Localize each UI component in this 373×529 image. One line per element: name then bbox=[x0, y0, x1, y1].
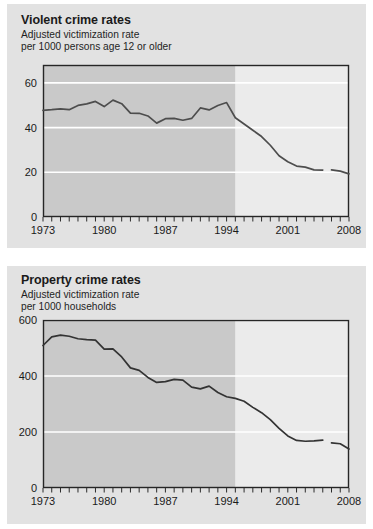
violent-crime-plot-svg: 1973198019871994200120080204060 bbox=[7, 56, 366, 246]
xtick-label-1994: 1994 bbox=[214, 495, 238, 507]
property-chart-title: Property crime rates bbox=[21, 273, 141, 287]
ytick-label-20: 20 bbox=[25, 166, 37, 178]
property-crime-panel: Property crime rates Adjusted victimizat… bbox=[7, 266, 366, 524]
property-crime-plot: 1973198019871994200120080200400600 bbox=[7, 312, 366, 517]
xtick-label-1987: 1987 bbox=[153, 495, 177, 507]
violent-chart-subtitle-line1: Adjusted victimization rate bbox=[21, 29, 139, 41]
property-chart-subtitle-line1: Adjusted victimization rate bbox=[21, 289, 139, 301]
violent-crime-plot: 1973198019871994200120080204060 bbox=[7, 56, 366, 246]
property-crime-plot-svg: 1973198019871994200120080200400600 bbox=[7, 312, 366, 517]
unshaded-region-post-redesign bbox=[235, 65, 349, 217]
xtick-label-1973: 1973 bbox=[31, 495, 55, 507]
ytick-label-600: 600 bbox=[19, 314, 37, 326]
shaded-region-pre-redesign bbox=[43, 320, 235, 488]
ytick-label-400: 400 bbox=[19, 370, 37, 382]
xtick-label-2001: 2001 bbox=[276, 224, 300, 236]
xtick-label-1980: 1980 bbox=[92, 224, 116, 236]
ytick-label-60: 60 bbox=[25, 77, 37, 89]
xtick-label-1973: 1973 bbox=[31, 224, 55, 236]
ytick-label-200: 200 bbox=[19, 426, 37, 438]
shaded-region-pre-redesign bbox=[43, 65, 235, 217]
xtick-label-1980: 1980 bbox=[92, 495, 116, 507]
ytick-label-40: 40 bbox=[25, 122, 37, 134]
xtick-label-1987: 1987 bbox=[153, 224, 177, 236]
ytick-label-0: 0 bbox=[31, 211, 37, 223]
xtick-label-1994: 1994 bbox=[214, 224, 238, 236]
crime-rate-charts-page: Violent crime rates Adjusted victimizati… bbox=[0, 0, 373, 529]
xtick-label-2008: 2008 bbox=[337, 224, 361, 236]
xtick-label-2008: 2008 bbox=[337, 495, 361, 507]
ytick-label-0: 0 bbox=[31, 482, 37, 494]
violent-crime-panel: Violent crime rates Adjusted victimizati… bbox=[7, 4, 366, 248]
property-chart-subtitle-line2: per 1000 households bbox=[21, 301, 116, 313]
violent-chart-subtitle-line2: per 1000 persons age 12 or older bbox=[21, 41, 172, 53]
violent-chart-title: Violent crime rates bbox=[21, 13, 131, 27]
unshaded-region-post-redesign bbox=[235, 320, 349, 488]
xtick-label-2001: 2001 bbox=[276, 495, 300, 507]
